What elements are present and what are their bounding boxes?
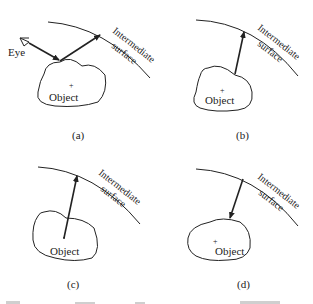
figure-canvas: + Object Eye Intermediate surface (a) + … [0,0,313,304]
normal-ray [64,176,77,238]
panel-caption: (b) [236,129,249,142]
object-label: Object [205,94,234,106]
panel-a: + Object Eye Intermediate surface (a) [8,22,158,142]
panel-b: + Object Intermediate surface (b) [194,20,303,142]
object-center-mark: + [69,81,74,90]
object-label: Object [49,91,78,103]
panel-c: Object Intermediate surface (c) [33,167,144,291]
object-label: Object [50,245,79,257]
panel-caption: (c) [67,278,80,291]
view-ray [29,43,59,60]
panel-caption: (a) [72,129,85,142]
eye-icon [20,38,29,46]
reflected-ray [60,35,100,61]
panel-caption: (d) [237,278,250,291]
object-label: Object [215,245,244,257]
normal-ray [235,32,244,74]
eye-label: Eye [8,46,25,58]
inward-ray [230,179,243,218]
panel-d: + Object Intermediate surface (d) [188,169,303,291]
